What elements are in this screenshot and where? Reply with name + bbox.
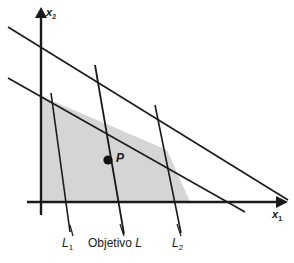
x-axis-arrowhead (276, 196, 288, 208)
line-label-objective-prefix: Objetivo (88, 236, 135, 250)
point-p-label: P (116, 151, 124, 165)
x-axis-label: x1 (272, 208, 282, 222)
line-label-l2: L2 (172, 236, 183, 252)
point-p-marker (103, 155, 112, 164)
x-axis-label-subscript: 1 (278, 215, 282, 222)
y-axis-label: x2 (46, 6, 56, 20)
line-label-l1-subscript: 1 (69, 243, 73, 252)
line-label-l2-base: L (172, 236, 179, 250)
linear-programming-figure: x2 x1 P L1 Objetivo L L2 (0, 0, 294, 263)
line-label-l2-subscript: 2 (179, 243, 183, 252)
line-label-l1: L1 (62, 236, 73, 252)
y-axis-label-subscript: 2 (52, 13, 56, 20)
line-label-objective-base: L (135, 236, 142, 250)
line-label-l1-base: L (62, 236, 69, 250)
figure-canvas (0, 0, 294, 263)
line-label-objective: Objetivo L (88, 236, 142, 250)
